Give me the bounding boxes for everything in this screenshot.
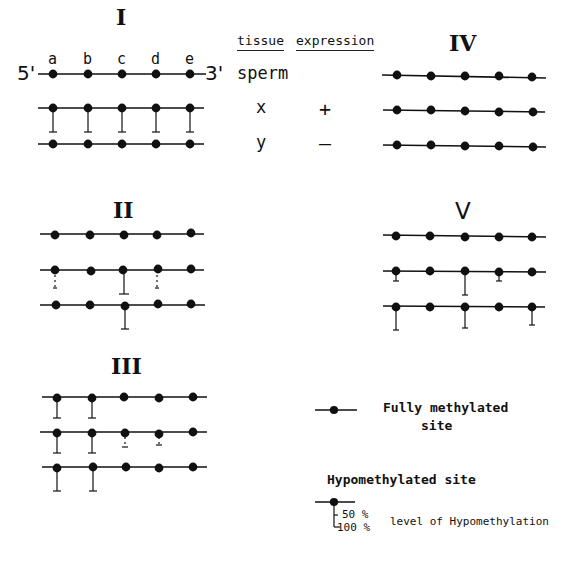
three-prime-label: 3': [205, 61, 223, 85]
panel-V: [383, 232, 546, 330]
legend-full-text-1: Fully methylated: [383, 400, 508, 415]
site-label-c: c: [117, 50, 126, 68]
expression-y: –: [319, 131, 331, 155]
expression-x: +: [319, 97, 331, 121]
legend-hypo-title: Hypomethylated site: [327, 472, 476, 487]
panel-IV: [382, 71, 546, 150]
tissue-header: tissue: [237, 33, 284, 51]
panel-label-V: V: [455, 198, 471, 224]
tissue-x: x: [256, 97, 266, 117]
legend-full-text-2: site: [421, 418, 452, 433]
panel-label-III: III: [111, 353, 142, 379]
panel-label-II: II: [113, 197, 134, 223]
methylation-diagram: [0, 0, 577, 570]
legend-level-text: level of Hypomethylation: [390, 515, 549, 528]
legend-full-symbol: [315, 407, 357, 414]
site-label-a: a: [48, 50, 57, 68]
tissue-sperm: sperm: [237, 63, 288, 83]
panel-III: [40, 393, 207, 491]
legend-50pct: 50 %: [342, 508, 369, 521]
tissue-y: y: [256, 132, 266, 152]
five-prime-label: 5': [17, 61, 35, 85]
panel-label-I: I: [116, 4, 126, 30]
expression-header: expression: [296, 33, 374, 51]
site-label-b: b: [83, 50, 92, 68]
site-label-d: d: [151, 50, 160, 68]
panel-label-IV: IV: [449, 30, 476, 56]
panel-I: [38, 70, 206, 147]
legend-100pct: 100 %: [337, 521, 370, 534]
panel-II: [40, 229, 205, 329]
site-label-e: e: [185, 50, 194, 68]
